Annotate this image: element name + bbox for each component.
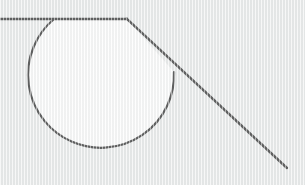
geometry-diagram-svg <box>0 0 305 185</box>
geometry-figure-canvas <box>0 0 305 185</box>
